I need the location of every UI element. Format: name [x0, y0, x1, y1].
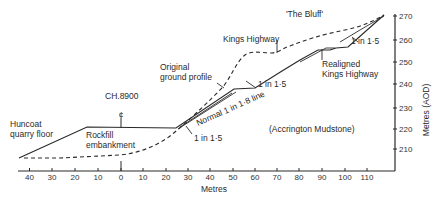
huncoat-label-2: quarry floor: [10, 129, 53, 139]
svg-text:80: 80: [295, 173, 304, 182]
the-bluff-label: 'The Bluff': [286, 9, 323, 19]
cross-section-diagram: 40 30 20 10 0 10 20 30 40 50 60 70 80 90…: [0, 0, 433, 199]
slope-top-label: 1 in 1·5: [351, 36, 380, 46]
svg-text:50: 50: [229, 173, 238, 182]
slope-left-label: 1 in 1·5: [194, 133, 223, 143]
svg-text:90: 90: [318, 173, 327, 182]
svg-text:230: 230: [399, 104, 413, 113]
huncoat-label-1: Huncoat: [10, 119, 42, 129]
y-axis-tick-labels: 270 260 250 240 230 220 210: [399, 12, 413, 154]
svg-text:110: 110: [361, 173, 374, 182]
svg-text:20: 20: [71, 173, 80, 182]
svg-text:10: 10: [139, 173, 148, 182]
svg-text:210: 210: [399, 145, 413, 154]
svg-text:20: 20: [162, 173, 171, 182]
svg-text:220: 220: [399, 125, 413, 134]
svg-text:250: 250: [399, 58, 413, 67]
kings-highway-label: Kings Highway: [223, 34, 280, 44]
chainage-label: CH.8900: [105, 91, 139, 101]
svg-text:60: 60: [251, 173, 260, 182]
original-ground-label-1: Original: [160, 62, 189, 72]
slope-mid-leader: [246, 81, 256, 88]
svg-text:10: 10: [94, 173, 103, 182]
realigned-label-2: Kings Highway: [322, 69, 379, 79]
centerline-symbol: ¢: [119, 110, 124, 120]
svg-text:30: 30: [184, 173, 193, 182]
svg-text:70: 70: [273, 173, 282, 182]
y-axis-title: Metres (AOD): [421, 84, 431, 137]
svg-text:40: 40: [206, 173, 215, 182]
slope-mid-label: 1 in 1·5: [258, 79, 287, 89]
svg-text:0: 0: [119, 173, 124, 182]
realigned-label-1: Realigned: [322, 59, 361, 69]
rockfill-label-2: embankment: [86, 140, 136, 150]
svg-text:240: 240: [399, 80, 413, 89]
svg-text:40: 40: [25, 173, 34, 182]
svg-text:30: 30: [48, 173, 57, 182]
original-ground-label-2: ground profile: [160, 72, 212, 82]
rockfill-label-1: Rockfill: [86, 130, 114, 140]
x-axis-title: Metres: [201, 184, 227, 194]
svg-text:100: 100: [338, 173, 352, 182]
original-ground-leader: [217, 83, 224, 88]
svg-text:260: 260: [399, 36, 413, 45]
svg-text:270: 270: [399, 12, 413, 21]
slope-left-leader: [186, 126, 192, 134]
mudstone-label: (Accrington Mudstone): [269, 124, 355, 134]
x-axis-tick-labels: 40 30 20 10 0 10 20 30 40 50 60 70 80 90…: [25, 173, 374, 182]
